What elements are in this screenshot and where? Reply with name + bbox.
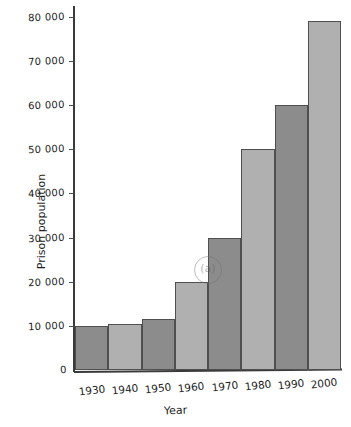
bar-cell (175, 8, 208, 370)
bar-2000 (308, 21, 341, 370)
y-axis-tick-label: 70 000 (28, 55, 65, 67)
x-axis-tick-label: 1950 (144, 380, 172, 395)
x-label-cell: 1940 (108, 374, 141, 400)
x-label-cell: 1960 (175, 374, 208, 400)
y-axis-tick-label: 60 000 (28, 99, 65, 111)
bar-1960 (175, 282, 208, 370)
y-axis-tick-label: 80 000 (28, 11, 65, 23)
y-axis-tick-label: 50 000 (28, 143, 65, 155)
bar-1930 (75, 326, 108, 370)
plot-area: 10 00020 00030 00040 00050 00060 00070 0… (75, 8, 341, 370)
bar-1970 (208, 238, 241, 370)
x-label-cell: 1970 (208, 374, 241, 400)
bar-1940 (108, 324, 141, 370)
x-axis-tick-label: 2000 (310, 375, 338, 390)
bar-cell (308, 8, 341, 370)
x-axis-title: Year (0, 398, 351, 423)
y-axis-title: Prison population (35, 174, 48, 269)
x-axis-tick-label: 1940 (111, 381, 139, 396)
x-label-cell: 1930 (75, 374, 108, 400)
bar-series (75, 8, 341, 370)
bar-cell (75, 8, 108, 370)
x-axis-tick-label: 1970 (211, 378, 239, 393)
x-label-cell: 1990 (275, 374, 308, 400)
x-axis-tick-label: 1990 (277, 376, 305, 391)
bar-cell (142, 8, 175, 370)
x-label-cell: 2000 (308, 374, 341, 400)
x-axis-tick-label: 1980 (244, 377, 272, 392)
y-axis-zero-label: 0 (60, 364, 67, 375)
bar-1950 (142, 319, 175, 370)
bar-cell (241, 8, 274, 370)
bar-cell (275, 8, 308, 370)
x-axis-tick-label: 1930 (78, 382, 106, 397)
x-label-cell: 1950 (142, 374, 175, 400)
bar-cell (208, 8, 241, 370)
x-label-cell: 1980 (241, 374, 274, 400)
bar-cell (108, 8, 141, 370)
bar-1980 (241, 149, 274, 370)
x-axis-tick-label: 1960 (177, 379, 205, 394)
y-axis-tick-label: 20 000 (28, 276, 65, 288)
y-axis-tick-label: 10 000 (28, 320, 65, 332)
x-axis-tick-labels: 19301940195019601970198019902000 (75, 374, 341, 400)
bar-1990 (275, 105, 308, 370)
bar-chart: 0 10 00020 00030 00040 00050 00060 00070… (0, 0, 351, 427)
